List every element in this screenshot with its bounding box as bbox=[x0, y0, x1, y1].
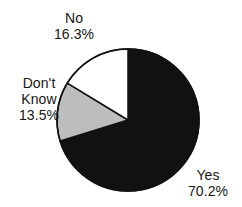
pie-label-yes: Yes 70.2% bbox=[176, 168, 240, 200]
pie-label-no-value: 16.3% bbox=[36, 27, 112, 43]
pie-label-no: No 16.3% bbox=[36, 11, 112, 43]
pie-chart: No 16.3% Don't Know 13.5% Yes 70.2% bbox=[0, 0, 242, 207]
pie-label-yes-name: Yes bbox=[176, 168, 240, 184]
pie-label-dont-know: Don't Know 13.5% bbox=[2, 76, 76, 124]
pie-label-dont-know-name-line2: Know bbox=[2, 92, 76, 108]
pie-label-dont-know-name-line1: Don't bbox=[2, 76, 76, 92]
pie-label-no-name: No bbox=[36, 11, 112, 27]
pie-label-yes-value: 70.2% bbox=[176, 184, 240, 200]
pie-label-dont-know-value: 13.5% bbox=[2, 108, 76, 124]
